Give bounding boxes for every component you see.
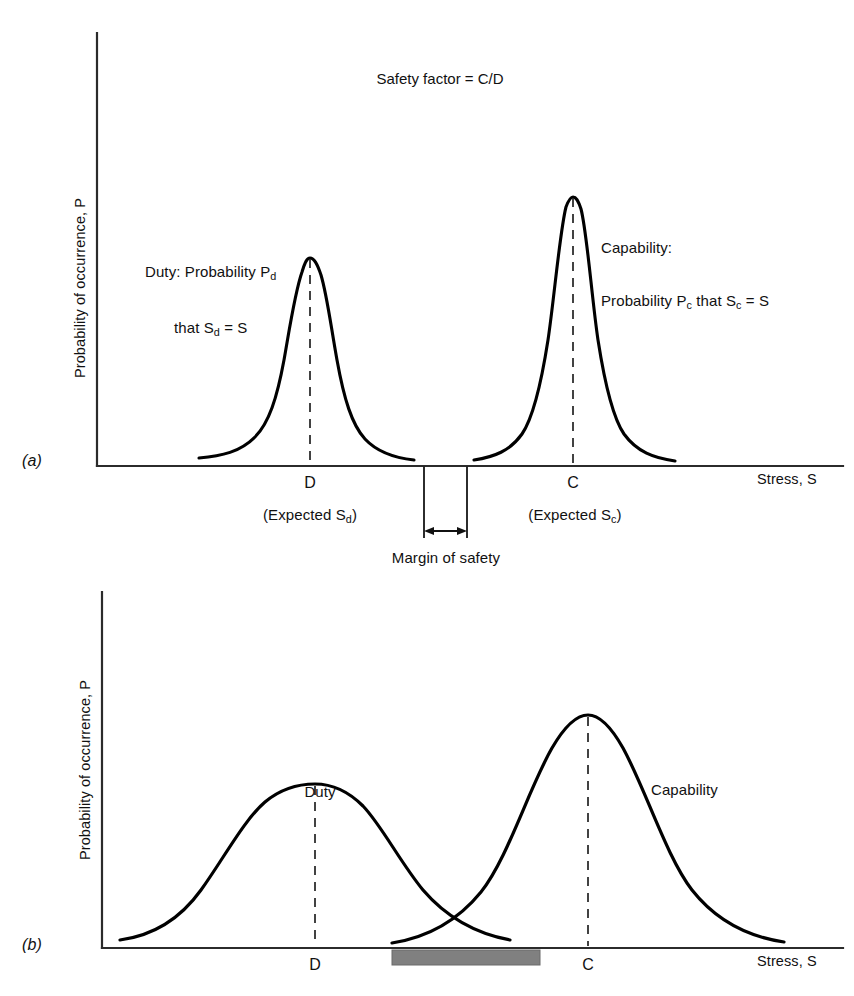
panel-a-capability-annotation-line1: Capability:	[601, 239, 769, 257]
panel-b-graph	[102, 592, 843, 965]
panel-b-duty-label: Duty	[304, 783, 335, 801]
margin-of-safety-label: Margin of safety	[392, 549, 500, 567]
overlap-interference-band	[392, 950, 540, 965]
panel-b-tick-label-c: C	[582, 956, 594, 975]
panel-a-capability-annotation: Capability: Probability Pc that Sc = S	[601, 204, 769, 348]
panel-a-capability-annotation-line2: Probability Pc that Sc = S	[601, 292, 769, 312]
panel-b-capability-label: Capability	[651, 781, 718, 799]
panel-a-tick-label-c: C	[567, 474, 579, 493]
panel-a-duty-annotation: Duty: Probability Pd that Sd = S	[145, 228, 276, 374]
expected-stress-duty-label: (Expected Sd)	[263, 506, 357, 526]
panel-a-duty-annotation-line2: that Sd = S	[145, 319, 276, 339]
panel-b-tick-label-d: D	[309, 956, 321, 975]
panel-a-y-axis-title: Probability of occurrence, P	[72, 198, 89, 378]
margin-of-safety-arrow	[424, 527, 467, 535]
stress-strength-interference-figure: (a) Probability of occurrence, P Stress,…	[0, 0, 854, 996]
panel-b-letter: (b)	[22, 936, 42, 955]
panel-a-tick-label-d: D	[304, 474, 316, 493]
panel-b-y-axis-title: Probability of occurrence, P	[77, 680, 94, 860]
panel-a-letter: (a)	[22, 452, 42, 471]
panel-a-x-axis-title: Stress, S	[757, 471, 817, 488]
panel-b-x-axis-title: Stress, S	[757, 953, 817, 970]
expected-stress-capability-label: (Expected Sc)	[528, 506, 621, 526]
figure-vector-layer	[0, 0, 854, 996]
panel-a-duty-annotation-line1: Duty: Probability Pd	[145, 263, 276, 283]
safety-factor-note: Safety factor = C/D	[376, 70, 503, 88]
